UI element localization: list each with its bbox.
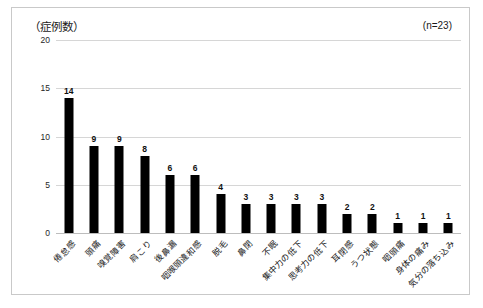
- bar-value-label: 9: [117, 134, 122, 144]
- bar-item[interactable]: 6: [183, 40, 208, 233]
- bar-item[interactable]: 9: [81, 40, 106, 233]
- bar-item[interactable]: 3: [309, 40, 334, 233]
- gridline-0: [56, 233, 461, 234]
- bar-item[interactable]: 4: [208, 40, 233, 233]
- bar-value-label: 3: [319, 192, 324, 202]
- bar-value-label: 6: [168, 163, 173, 173]
- y-tick-label-5: 5: [24, 180, 50, 190]
- bar-value-label: 8: [142, 144, 147, 154]
- bar[interactable]: [393, 223, 402, 233]
- bar[interactable]: [343, 214, 352, 233]
- bar[interactable]: [267, 204, 276, 233]
- bar[interactable]: [191, 175, 200, 233]
- bar[interactable]: [115, 146, 124, 233]
- bar-value-label: 2: [370, 202, 375, 212]
- bar-value-label: 4: [218, 182, 223, 192]
- bar-value-label: 1: [395, 211, 400, 221]
- y-tick-label-15: 15: [24, 83, 50, 93]
- bar[interactable]: [64, 98, 73, 233]
- bar[interactable]: [292, 204, 301, 233]
- x-tick-label: 鼻閉: [233, 237, 254, 258]
- bar[interactable]: [317, 204, 326, 233]
- plot-area: 14998664333322111: [56, 40, 461, 233]
- bar-value-label: 9: [92, 134, 97, 144]
- bar-value-label: 14: [64, 86, 73, 96]
- bar-item[interactable]: 6: [157, 40, 182, 233]
- bar-item[interactable]: 14: [56, 40, 81, 233]
- bar-item[interactable]: 1: [410, 40, 435, 233]
- y-tick-label-10: 10: [24, 132, 50, 142]
- bar[interactable]: [216, 194, 225, 233]
- bar-item[interactable]: 2: [334, 40, 359, 233]
- bar-item[interactable]: 3: [284, 40, 309, 233]
- bar[interactable]: [368, 214, 377, 233]
- bar-value-label: 1: [446, 211, 451, 221]
- bar-item[interactable]: 3: [233, 40, 258, 233]
- bar-item[interactable]: 1: [436, 40, 461, 233]
- bar[interactable]: [241, 204, 250, 233]
- bar[interactable]: [89, 146, 98, 233]
- y-axis-unit-title: （症例数）: [29, 18, 84, 34]
- bar-item[interactable]: 2: [360, 40, 385, 233]
- bar-value-label: 2: [345, 202, 350, 212]
- x-axis-category-labels: 倦怠感頭痛嗅覚障害肩こり後鼻漏咽喉頭違和感脱毛鼻閉不眠集中力の低下思考力の低下耳…: [56, 235, 461, 305]
- x-tick-label: 肩こり: [126, 237, 153, 264]
- y-axis-tick-labels: 05101520: [22, 40, 50, 233]
- chart-frame: （症例数） (n=23) 05101520 14998664333322111 …: [11, 7, 470, 295]
- bar-item[interactable]: 1: [385, 40, 410, 233]
- x-tick-label: 脱毛: [208, 237, 229, 258]
- bar-value-label: 3: [294, 192, 299, 202]
- bar[interactable]: [419, 223, 428, 233]
- bar-item[interactable]: 3: [259, 40, 284, 233]
- bar-value-label: 1: [421, 211, 426, 221]
- y-tick-label-0: 0: [24, 228, 50, 238]
- bar-item[interactable]: 8: [132, 40, 157, 233]
- y-tick-label-20: 20: [24, 35, 50, 45]
- bar[interactable]: [444, 223, 453, 233]
- bar-value-label: 3: [243, 192, 248, 202]
- bar-value-label: 3: [269, 192, 274, 202]
- sample-size-annotation: (n=23): [423, 20, 452, 31]
- bar-value-label: 6: [193, 163, 198, 173]
- bar[interactable]: [165, 175, 174, 233]
- bar-series: 14998664333322111: [56, 40, 461, 233]
- bar[interactable]: [140, 156, 149, 233]
- bar-item[interactable]: 9: [107, 40, 132, 233]
- x-tick-label: 倦怠感: [50, 237, 77, 264]
